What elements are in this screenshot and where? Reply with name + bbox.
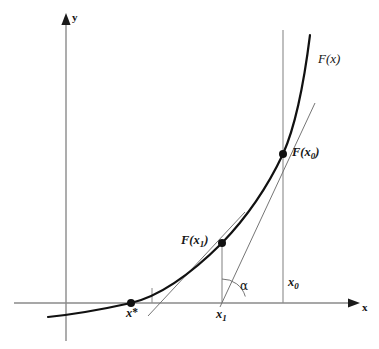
function-curve <box>48 35 310 317</box>
x-axis-label: x <box>362 302 368 313</box>
tangent-line-at-x0 <box>220 103 315 307</box>
axis-label-x0-subscript: 0 <box>294 281 299 291</box>
point-marker-x1 <box>218 239 226 247</box>
axis-label-x-star-mark: * <box>132 306 138 318</box>
axis-label-x-star: x* <box>126 307 138 320</box>
curve-label-fx-text: F(x) <box>318 51 340 66</box>
y-axis-arrowhead <box>61 13 70 25</box>
axis-label-x0: x0 <box>288 276 299 291</box>
point-label-f-x0-close: ) <box>315 145 319 159</box>
point-label-f-x0: F(x0) <box>292 146 319 161</box>
axis-label-x1-subscript: 1 <box>222 313 227 323</box>
newton-method-figure: y x F(x) F(x0) F(x1) x* x1 x0 α <box>0 0 379 349</box>
point-label-f-x1-base: F(x <box>181 233 200 247</box>
angle-label-alpha: α <box>240 280 248 292</box>
point-marker-x0 <box>279 150 287 158</box>
tangent-line-at-x1 <box>148 212 245 316</box>
point-label-f-x1: F(x1) <box>181 234 208 249</box>
curve-label-fx: F(x) <box>318 52 340 65</box>
x-axis-arrowhead <box>348 298 360 307</box>
axis-label-x1: x1 <box>216 308 227 323</box>
point-label-f-x0-base: F(x <box>292 145 311 159</box>
point-label-f-x1-close: ) <box>204 233 208 247</box>
y-axis-label: y <box>72 12 78 23</box>
